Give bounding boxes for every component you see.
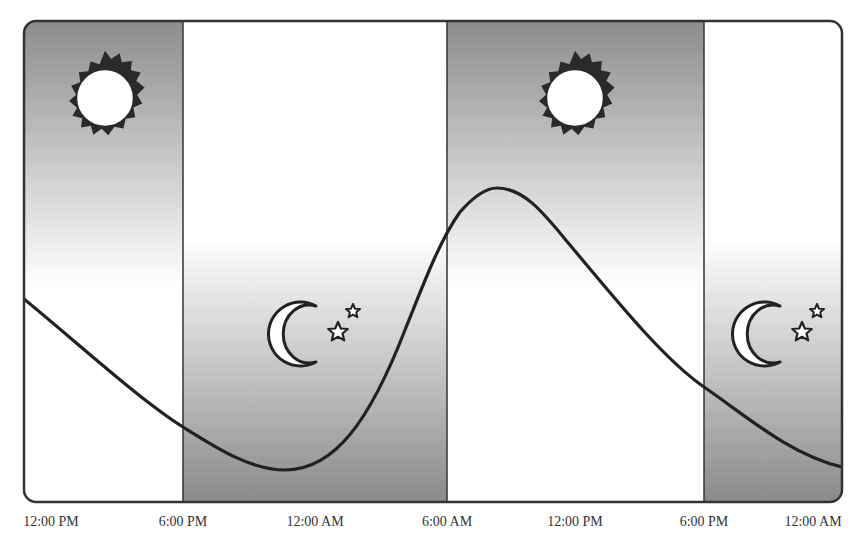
tick-label: 6:00 PM [159, 514, 208, 530]
tick-label: 12:00 PM [23, 514, 79, 530]
day-night-diagram [0, 0, 865, 554]
band-night-2 [704, 21, 844, 502]
tick-label: 6:00 PM [680, 514, 729, 530]
tick-label: 12:00 PM [547, 514, 603, 530]
tick-label: 12:00 AM [784, 514, 841, 530]
tick-label: 12:00 AM [286, 514, 343, 530]
tick-label: 6:00 AM [422, 514, 472, 530]
band-night-1 [183, 21, 447, 502]
